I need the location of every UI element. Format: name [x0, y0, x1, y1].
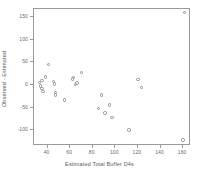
x-tick-mark [47, 145, 48, 148]
data-point [97, 107, 100, 110]
x-tick-label: 160 [178, 149, 187, 155]
data-point [72, 76, 75, 79]
x-tick-mark [114, 145, 115, 148]
x-tick-label: 120 [133, 149, 142, 155]
data-point [40, 79, 43, 82]
data-point [140, 86, 143, 89]
data-point [75, 81, 78, 84]
x-tick-mark [92, 145, 93, 148]
x-tick-label: 60 [66, 149, 72, 155]
y-tick-mark [30, 61, 33, 62]
y-tick-label: 0 [25, 81, 28, 87]
data-point [47, 63, 50, 66]
x-tick-label: 100 [110, 149, 119, 155]
data-point [53, 82, 56, 85]
data-point [181, 138, 184, 141]
data-point [183, 11, 186, 14]
data-point [103, 111, 106, 114]
y-axis-title: Observed - Estimated [1, 51, 7, 107]
x-tick-label: 140 [155, 149, 164, 155]
scatter-plot-figure: 406080100120140160 -100-50050100150 Esti… [0, 0, 199, 177]
plot-frame [33, 8, 190, 145]
data-point [41, 90, 44, 93]
data-point [44, 75, 47, 78]
x-tick-mark [137, 145, 138, 148]
data-point [80, 71, 83, 74]
y-tick-mark [30, 107, 33, 108]
x-tick-mark [160, 145, 161, 148]
data-point [63, 98, 66, 101]
x-axis-title: Estimated Total Buffer D4s [0, 161, 199, 167]
data-points-layer [34, 9, 189, 144]
y-tick-mark [30, 16, 33, 17]
y-tick-mark [30, 39, 33, 40]
data-point [100, 93, 103, 96]
y-tick-label: -50 [20, 104, 28, 110]
x-tick-mark [182, 145, 183, 148]
data-point [110, 116, 113, 119]
x-tick-label: 80 [89, 149, 95, 155]
y-tick-label: 50 [22, 58, 28, 64]
data-point [127, 128, 130, 131]
y-tick-mark [30, 84, 33, 85]
x-tick-mark [69, 145, 70, 148]
y-tick-label: -100 [18, 126, 28, 132]
y-tick-label: 100 [19, 36, 28, 42]
y-tick-mark [30, 129, 33, 130]
x-tick-label: 40 [44, 149, 50, 155]
data-point [136, 78, 139, 81]
data-point [54, 93, 57, 96]
data-point [108, 103, 111, 106]
y-tick-label: 150 [19, 13, 28, 19]
